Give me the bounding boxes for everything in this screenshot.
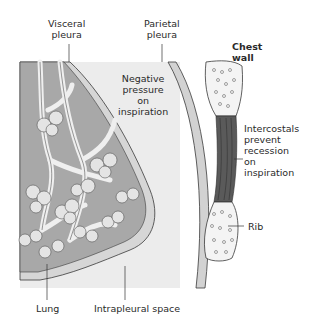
label-intrapleural-space: Intrapleural space — [94, 303, 180, 314]
label-parietal-pleura: Parietal pleura — [144, 18, 180, 40]
label-visceral-pleura: Visceral pleura — [48, 18, 85, 40]
rib-upper — [205, 61, 242, 116]
label-rib: Rib — [248, 221, 263, 232]
label-lung: Lung — [36, 303, 59, 314]
label-chest-wall: Chest wall — [232, 41, 262, 63]
label-intercostals: Intercostals prevent recession on inspir… — [244, 123, 299, 178]
label-negative-pressure: Negative pressure on inspiration — [118, 73, 168, 117]
